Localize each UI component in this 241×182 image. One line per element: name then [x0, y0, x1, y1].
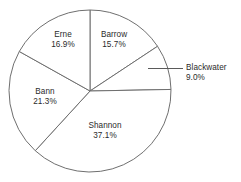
pie-label-value: 21.3%: [33, 97, 56, 107]
pie-label-shannon: Shannon37.1%: [88, 121, 121, 140]
pie-label-name: Erne: [51, 30, 74, 40]
pie-chart-figure: Barrow15.7%Blackwater9.0%Shannon37.1%Ban…: [0, 0, 241, 182]
pie-label-value: 9.0%: [186, 73, 227, 83]
pie-label-barrow: Barrow15.7%: [101, 30, 127, 49]
pie-label-name: Barrow: [101, 30, 127, 40]
pie-label-name: Blackwater: [186, 63, 227, 73]
pie-label-name: Shannon: [88, 121, 121, 131]
pie-label-blackwater: Blackwater9.0%: [186, 63, 227, 82]
pie-label-bann: Bann21.3%: [33, 87, 56, 106]
pie-label-value: 37.1%: [88, 131, 121, 141]
pie-label-name: Bann: [33, 87, 56, 97]
pie-label-value: 16.9%: [51, 40, 74, 50]
pie-label-value: 15.7%: [101, 40, 127, 50]
pie-label-erne: Erne16.9%: [51, 30, 74, 49]
